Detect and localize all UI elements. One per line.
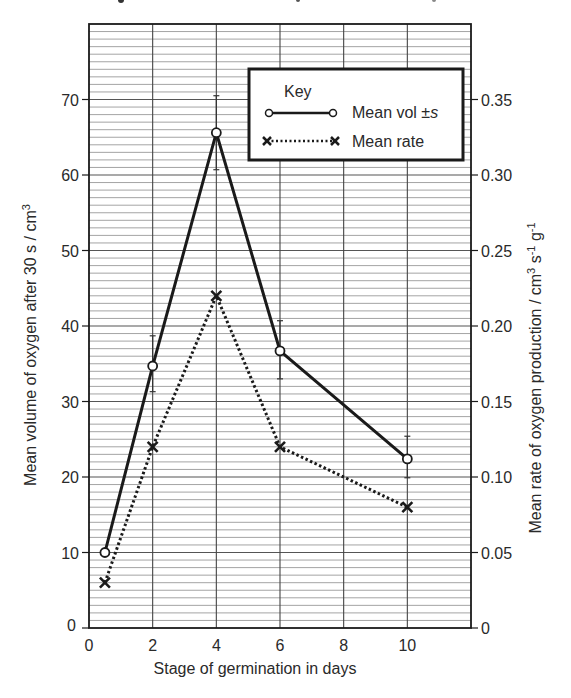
y-tick-label-right: 0.25 (481, 243, 512, 260)
open-circle-marker-icon (100, 548, 109, 557)
open-circle-marker-icon (266, 110, 273, 117)
y-tick-label-left: 60 (61, 167, 79, 184)
y-tick-label-right: 0.35 (481, 92, 512, 109)
y-tick-label-left: 20 (61, 469, 79, 486)
legend-title: Key (284, 83, 312, 100)
open-circle-marker-icon (148, 362, 157, 371)
y-tick-label-right: 0.30 (481, 167, 512, 184)
y-tick-label-right: 0 (481, 620, 490, 637)
y-axis-right-label: Mean rate of oxygen production / cm3 s-1… (525, 222, 544, 533)
y-tick-label-right: 0.10 (481, 469, 512, 486)
legend: Key Mean vol ±s Mean rate (249, 69, 463, 160)
chart: 10203040506070000.050.100.150.200.250.30… (0, 0, 571, 698)
series (100, 96, 412, 588)
open-circle-marker-icon (330, 110, 337, 117)
open-circle-marker-icon (403, 454, 412, 463)
x-tick-label: 0 (85, 637, 94, 654)
y-tick-label-right: 0.05 (481, 545, 512, 562)
x-tick-label: 2 (148, 637, 157, 654)
cropped-title-fragment (118, 0, 436, 3)
open-circle-marker-icon (212, 128, 221, 137)
x-tick-label: 8 (339, 637, 348, 654)
svg-text:Mean vol ±s: Mean vol ±s (352, 104, 438, 121)
legend-label-vol: Mean vol ± (352, 104, 430, 121)
x-axis-label: Stage of germination in days (154, 660, 357, 677)
legend-label-rate: Mean rate (352, 133, 424, 150)
y-axis-left-label: Mean volume of oxygen after 30 s / cm3 (20, 204, 39, 486)
y-tick-label-right: 0.15 (481, 394, 512, 411)
legend-label-vol-s: s (430, 104, 438, 121)
x-tick-label: 6 (276, 637, 285, 654)
y-tick-label-right: 0.20 (481, 318, 512, 335)
open-circle-marker-icon (276, 346, 285, 355)
series-line-mean-vol (105, 133, 407, 553)
y-tick-label-left: 30 (61, 394, 79, 411)
y-tick-label-left: 40 (61, 318, 79, 335)
x-tick-label: 10 (398, 637, 416, 654)
y-tick-label-left: 70 (61, 92, 79, 109)
x-tick-label: 4 (212, 637, 221, 654)
y-tick-label-left: 10 (61, 545, 79, 562)
y-tick-label-left: 50 (61, 243, 79, 260)
y-tick-label-left-zero: 0 (67, 617, 76, 634)
